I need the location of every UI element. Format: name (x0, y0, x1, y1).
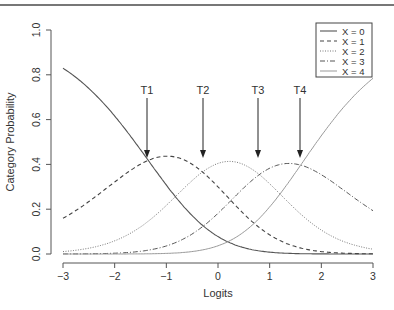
threshold-arrows: T1T2T3T4 (141, 84, 307, 158)
legend-entry-label: X = 4 (342, 66, 364, 77)
curve-x-3 (63, 163, 373, 254)
x-axis-label: Logits (203, 287, 233, 299)
x-tick-label: −2 (109, 270, 121, 282)
threshold-label-t2: T2 (197, 84, 210, 96)
curve-x-1 (63, 156, 373, 254)
x-tick-label: 3 (370, 270, 376, 282)
y-tick-label: 0.8 (30, 67, 42, 82)
arrow-head-icon (200, 150, 206, 158)
arrow-head-icon (297, 150, 303, 158)
arrow-head-icon (255, 150, 261, 158)
arrow-head-icon (144, 150, 150, 158)
curve-x-4 (63, 78, 373, 254)
y-tick-label: 1.0 (30, 23, 42, 38)
legend: X = 0X = 1X = 2X = 3X = 4 (316, 23, 372, 77)
y-tick-label: 0.6 (30, 112, 42, 127)
x-tick-label: 1 (267, 270, 273, 282)
curve-x-0 (63, 68, 373, 254)
threshold-label-t1: T1 (141, 84, 154, 96)
x-tick-label: 0 (215, 270, 221, 282)
x-tick-label: 2 (318, 270, 324, 282)
threshold-label-t3: T3 (252, 84, 265, 96)
y-tick-label: 0.0 (30, 247, 42, 262)
x-tick-label: −1 (160, 270, 172, 282)
curve-x-2 (63, 161, 373, 251)
x-tick-label: −3 (57, 270, 69, 282)
y-tick-label: 0.4 (30, 157, 42, 172)
threshold-label-t4: T4 (294, 84, 307, 96)
y-tick-label: 0.2 (30, 202, 42, 217)
curves (63, 68, 373, 254)
category-probability-chart: 0.00.20.40.60.81.0−3−2−10123 T1T2T3T4 X … (0, 0, 394, 310)
y-axis-label: Category Probability (4, 92, 16, 192)
